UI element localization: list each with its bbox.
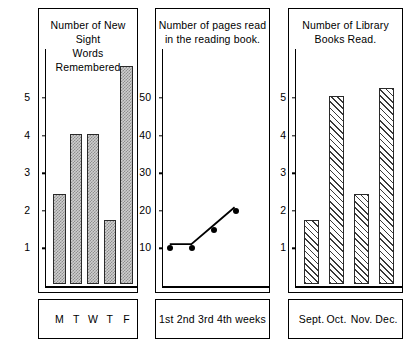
week-labels: 1st 2nd 3rd 4th weeks <box>156 313 269 325</box>
category-label: M <box>55 313 64 325</box>
y-tick-label: 3 <box>6 166 30 178</box>
plot-area-library-books: Number of Library Books Read. <box>288 8 403 293</box>
y-tick-mark <box>292 97 296 98</box>
y-tick-label: 5 <box>262 91 286 103</box>
y-tick-mark <box>292 248 296 249</box>
bar <box>329 96 344 284</box>
data-point-marker <box>189 245 195 251</box>
bar <box>304 220 319 284</box>
data-point-marker <box>211 227 217 233</box>
worksheet-canvas: Number of New Sight Words Remembered MTW… <box>0 0 407 345</box>
y-tick-label: 1 <box>262 241 286 253</box>
y-axis-sight-words <box>45 49 46 286</box>
chart-title-library-books: Number of Library Books Read. <box>289 18 402 46</box>
category-label: Sept. <box>299 313 325 325</box>
y-tick-label: 1 <box>6 241 30 253</box>
bar <box>87 134 100 284</box>
y-tick-mark <box>42 135 46 136</box>
y-tick-mark <box>42 248 46 249</box>
y-tick-label: 2 <box>262 204 286 216</box>
y-axis-library-books <box>295 49 296 286</box>
y-tick-label: 20 <box>127 204 151 216</box>
category-axis-sight-words: MTWTF <box>38 299 138 339</box>
plot-area-pages-read: Number of pages read in the reading book… <box>155 8 270 293</box>
y-tick-mark <box>292 210 296 211</box>
y-tick-label: 4 <box>262 129 286 141</box>
y-tick-mark <box>159 97 163 98</box>
y-tick-label: 2 <box>6 204 30 216</box>
chart-panel-pages-read: Number of pages read in the reading book… <box>155 8 270 339</box>
bar <box>53 194 66 284</box>
category-label: Nov. <box>351 313 373 325</box>
bar <box>104 220 117 284</box>
x-axis-library-books <box>295 286 402 288</box>
y-tick-mark <box>159 248 163 249</box>
y-tick-label: 40 <box>127 129 151 141</box>
category-label: T <box>106 313 113 325</box>
bar <box>70 134 83 284</box>
bar <box>379 88 394 284</box>
y-tick-label: 4 <box>6 129 30 141</box>
data-point-marker <box>167 245 173 251</box>
category-label: Oct. <box>326 313 346 325</box>
y-tick-mark <box>292 135 296 136</box>
y-tick-mark <box>42 172 46 173</box>
y-tick-mark <box>292 172 296 173</box>
category-axis-library-books: Sept.Oct.Nov.Dec. <box>288 299 403 339</box>
y-tick-mark <box>159 172 163 173</box>
data-point-marker <box>233 208 239 214</box>
y-tick-label: 50 <box>127 91 151 103</box>
y-tick-label: 3 <box>262 166 286 178</box>
y-tick-mark <box>42 97 46 98</box>
chart-panel-sight-words: Number of New Sight Words Remembered MTW… <box>38 8 138 339</box>
y-tick-label: 30 <box>127 166 151 178</box>
x-axis-sight-words <box>45 286 137 288</box>
bar <box>354 194 369 284</box>
y-tick-mark <box>159 135 163 136</box>
y-tick-label: 5 <box>6 91 30 103</box>
plot-area-sight-words: Number of New Sight Words Remembered <box>38 8 138 293</box>
y-tick-mark <box>42 210 46 211</box>
category-label: F <box>123 313 130 325</box>
y-tick-label: 10 <box>127 241 151 253</box>
category-label: W <box>88 313 98 325</box>
y-tick-mark <box>159 210 163 211</box>
chart-panel-library-books: Number of Library Books Read. Sept.Oct.N… <box>288 8 403 339</box>
category-axis-pages-read: 1st 2nd 3rd 4th weeks <box>155 299 270 339</box>
category-label: Dec. <box>375 313 397 325</box>
category-label: T <box>73 313 80 325</box>
